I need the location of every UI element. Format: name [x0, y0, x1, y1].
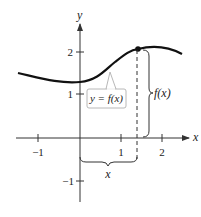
curve-label: y = f(x)	[89, 92, 123, 105]
x-tick-label-2: 2	[159, 146, 165, 158]
y-axis-label: y	[76, 8, 83, 22]
x-tick-label-1: 1	[118, 146, 124, 158]
point-on-curve	[135, 46, 141, 52]
graph-canvas: −1 1 2 2 1 −1 x y f(x) x y = f(x)	[0, 0, 201, 217]
y-tick-label-neg1: −1	[62, 175, 74, 187]
width-brace-label: x	[104, 167, 111, 181]
x-axis-label: x	[192, 130, 199, 144]
height-brace-label: f(x)	[154, 86, 171, 100]
function-diagram: −1 1 2 2 1 −1 x y f(x) x y = f(x)	[0, 0, 201, 217]
y-tick-label-2: 2	[68, 46, 74, 58]
height-brace	[143, 50, 153, 137]
y-tick-label-1: 1	[68, 88, 74, 100]
width-brace	[80, 157, 137, 166]
label-pointer	[106, 72, 116, 89]
function-curve	[18, 47, 182, 83]
x-tick-label-neg1: −1	[32, 146, 44, 158]
